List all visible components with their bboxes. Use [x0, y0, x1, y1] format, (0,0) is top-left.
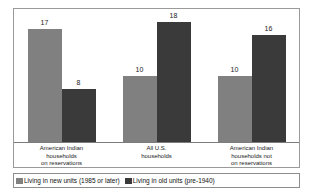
bar-slot-new-units: 17	[28, 9, 62, 142]
bar-value-label: 10	[136, 66, 144, 74]
bar-value-label: 16	[265, 25, 273, 33]
legend-item-old-units: Living in old units (pre-1940)	[125, 177, 215, 185]
bar-group-american-indian-on-reservations: 17 8	[14, 9, 109, 142]
bar-group-all-us-households: 10 18	[109, 9, 204, 142]
bar-value-label: 18	[170, 12, 178, 20]
category-label-line: American Indian	[204, 145, 299, 153]
category-label-all-us-households: All U.S. households	[109, 145, 204, 169]
bar-slot-new-units: 10	[123, 9, 157, 142]
bar-old-units	[252, 35, 286, 142]
bar-slot-old-units: 8	[62, 9, 96, 142]
category-label-line: households	[14, 153, 109, 161]
bar-slot-old-units: 18	[157, 9, 191, 142]
category-label-line: American Indian	[14, 145, 109, 153]
bar-new-units	[28, 29, 62, 142]
chart-legend: Living in new units (1985 or later) Livi…	[13, 173, 300, 188]
category-label-line: on reservations	[14, 160, 109, 168]
category-labels: American Indian households on reservatio…	[14, 145, 299, 169]
bar-new-units	[123, 76, 157, 142]
bar-group-american-indian-not-on-reservations: 10 16	[204, 9, 299, 142]
category-label-line: households not	[204, 153, 299, 161]
bar-slot-old-units: 16	[252, 9, 286, 142]
axis-baseline	[14, 142, 299, 143]
bar-slot-new-units: 10	[218, 9, 252, 142]
bar-old-units	[62, 89, 96, 142]
category-label-american-indian-not-on-reservations: American Indian households not on reserv…	[204, 145, 299, 169]
legend-label: Living in new units (1985 or later)	[24, 177, 120, 185]
category-label-line: All U.S.	[109, 145, 204, 153]
bar-value-label: 10	[231, 66, 239, 74]
bar-value-label: 17	[41, 19, 49, 27]
bar-chart-figure: 17 8 10 18 10 16	[0, 0, 309, 196]
category-label-line: on reservations	[204, 160, 299, 168]
category-label-american-indian-on-reservations: American Indian households on reservatio…	[14, 145, 109, 169]
bar-value-label: 8	[77, 79, 81, 87]
legend-label: Living in old units (pre-1940)	[133, 177, 215, 185]
category-label-line: households	[109, 153, 204, 161]
legend-swatch-icon	[125, 178, 132, 184]
bar-old-units	[157, 22, 191, 142]
legend-swatch-icon	[16, 178, 23, 184]
legend-item-new-units: Living in new units (1985 or later)	[16, 177, 120, 185]
bar-new-units	[218, 76, 252, 142]
plot-area: 17 8 10 18 10 16	[14, 9, 299, 142]
